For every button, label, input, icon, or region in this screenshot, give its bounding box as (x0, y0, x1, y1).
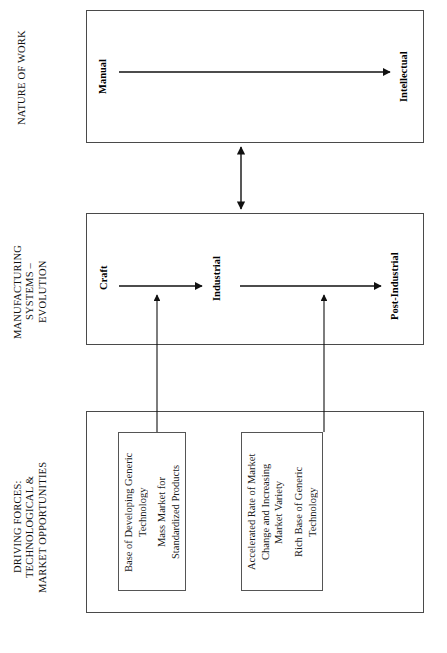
row-label-nature-of-work: NATURE OF WORK (16, 14, 46, 142)
stage-label-industrial: Industrial (211, 244, 227, 314)
diagram-canvas: NATURE OF WORK Manual Intellectual MANUF… (0, 0, 447, 653)
force-box-1-line-1: Base of Developing Generic Technology (122, 443, 150, 581)
stage-label-craft: Craft (98, 255, 114, 301)
force-box-1-line-2: Mass Market for Standardized Products (155, 443, 183, 581)
force-box-2-line-1: Accelerated Rate of Market Change and In… (245, 443, 288, 581)
row-label-driving-forces: DRIVING FORCES: TECHNOLOGICAL & MARKET O… (12, 452, 56, 602)
force-box-2-line-2: Rich Base of Generic Technology (292, 443, 320, 581)
stage-label-post-industrial: Post-Industrial (389, 238, 405, 334)
stage-label-manual: Manual (97, 36, 113, 116)
row-label-manufacturing-systems: MANUFACTURING SYSTEMS – EVOLUTION (12, 232, 54, 352)
panel-nature-of-work (86, 10, 424, 143)
stage-label-intellectual: Intellectual (398, 30, 414, 124)
panel-manufacturing-systems (86, 213, 424, 345)
